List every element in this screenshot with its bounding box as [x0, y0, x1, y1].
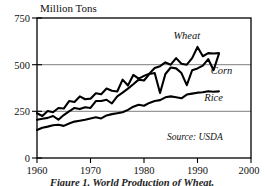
series-label-corn: Corn: [211, 65, 233, 76]
series-label-wheat: Wheat: [173, 30, 201, 41]
y-axis-title: Million Tons: [40, 2, 97, 14]
x-tick-label-1990: 1990: [187, 165, 208, 176]
x-tick-label-2000: 2000: [239, 165, 260, 176]
x-tick-label-1960: 1960: [27, 165, 48, 176]
source-note: Source: USDA: [167, 132, 223, 142]
x-tick-label-1980: 1980: [134, 165, 155, 176]
x-tick-label-1970: 1970: [80, 165, 101, 176]
figure-container: Million Tons 750 500 250 0: [0, 0, 265, 186]
y-tick-label-750: 750: [14, 13, 30, 24]
y-tick-label-250: 250: [14, 106, 30, 117]
y-tick-label-500: 500: [14, 60, 30, 71]
figure-caption: Figure 1. World Production of Wheat,: [49, 177, 214, 186]
y-tick-label-0: 0: [25, 153, 30, 164]
world-production-line-chart: Million Tons 750 500 250 0: [0, 0, 265, 186]
series-label-rice: Rice: [203, 92, 223, 103]
